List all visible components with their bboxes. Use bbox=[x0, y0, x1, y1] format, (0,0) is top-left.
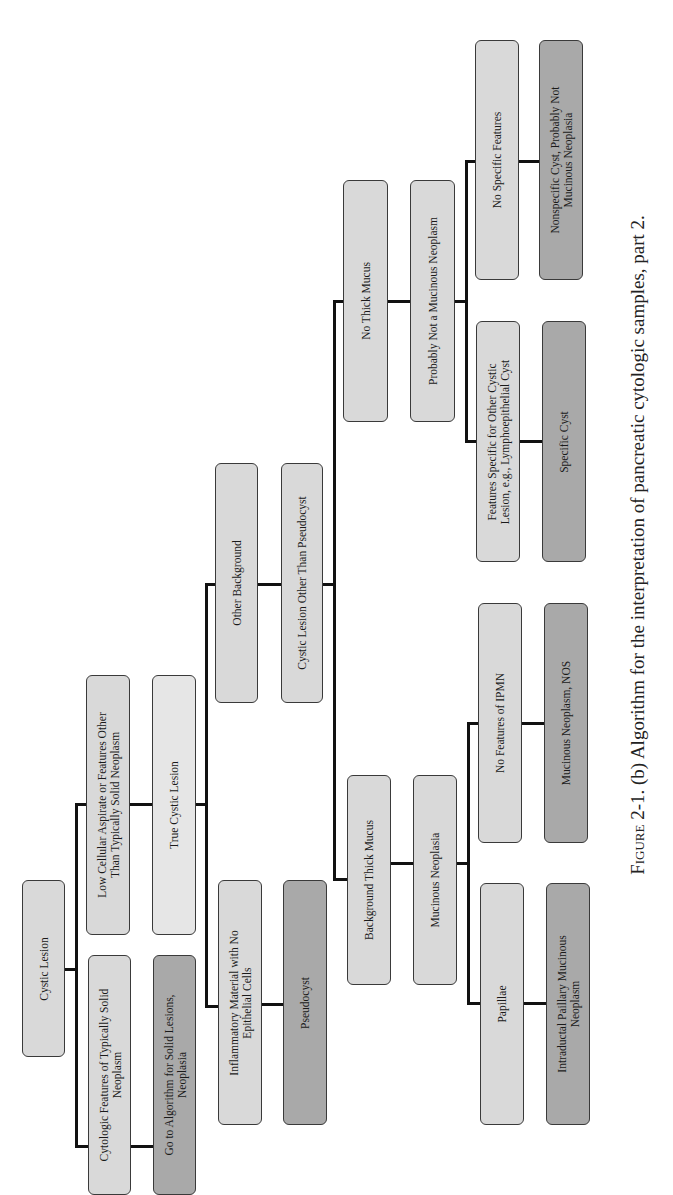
node-label: Probably Not a Mucinous Neoplasm bbox=[426, 217, 439, 385]
node-inflammatory-material: Inflammatory Material with NoEpithelial … bbox=[218, 880, 262, 1125]
node-no-thick-mucus: No Thick Mucus bbox=[343, 180, 388, 422]
connector bbox=[205, 583, 215, 586]
figure-label: Figure 2-1. bbox=[627, 790, 648, 875]
node-no-features-of-ipmn: No Features of IPMN bbox=[478, 603, 522, 843]
connector bbox=[75, 1145, 88, 1148]
node-label: Low Cellular Aspirate or Features OtherT… bbox=[96, 712, 121, 898]
node-papillae: Papillae bbox=[480, 883, 524, 1125]
node-features-specific-other-cystic: Features Specific for Other CysticLesion… bbox=[476, 321, 520, 562]
node-label: Background Thick Mucus bbox=[363, 820, 376, 940]
node-label: Cystic Lesion Other Than Pseudocyst bbox=[296, 496, 309, 670]
connector bbox=[465, 160, 475, 163]
figure-caption: Figure 2-1. (b) Algorithm for the interp… bbox=[627, 215, 649, 875]
node-mucinous-neoplasm-nos: Mucinous Neoplasm, NOS bbox=[544, 603, 588, 843]
node-cystic-lesion-other-than-pseudocyst: Cystic Lesion Other Than Pseudocyst bbox=[281, 463, 323, 703]
node-label: Pseudocyst bbox=[299, 977, 312, 1029]
node-label: No Features of IPMN bbox=[494, 673, 507, 773]
node-mucinous-neoplasia: Mucinous Neoplasia bbox=[413, 775, 457, 985]
connector bbox=[388, 300, 410, 303]
node-label: True Cystic Lesion bbox=[168, 761, 181, 849]
node-label: No Thick Mucus bbox=[359, 262, 372, 340]
node-label: Nonspecific Cyst, Probably NotMucinous N… bbox=[549, 87, 574, 234]
node-ipmn: Intraductal Paillary MucinousNeoplasm bbox=[546, 883, 590, 1125]
figure-caption-text: (b) Algorithm for the interpretation of … bbox=[627, 215, 648, 785]
node-label: Intraductal Paillary MucinousNeoplasm bbox=[556, 935, 581, 1072]
connector bbox=[519, 160, 539, 163]
node-label: Go to Algorithm for Solid Lesions,Neopla… bbox=[162, 995, 187, 1156]
connector bbox=[524, 1002, 546, 1005]
connector bbox=[467, 722, 478, 725]
node-label: Papillae bbox=[496, 985, 509, 1022]
connector bbox=[522, 722, 544, 725]
node-label: Features Specific for Other CysticLesion… bbox=[486, 359, 511, 524]
connector bbox=[467, 722, 470, 1004]
node-go-to-algorithm: Go to Algorithm for Solid Lesions,Neopla… bbox=[153, 955, 196, 1195]
connector bbox=[333, 878, 347, 881]
node-other-background: Other Background bbox=[215, 463, 258, 703]
node-label: Specific Cyst bbox=[558, 411, 571, 473]
node-cystic-lesion: Cystic Lesion bbox=[22, 880, 65, 1057]
connector bbox=[130, 1145, 153, 1148]
node-label: Cytologic Features of Typically SolidNeo… bbox=[97, 989, 122, 1162]
node-low-cellular-aspirate: Low Cellular Aspirate or Features OtherT… bbox=[86, 675, 130, 935]
connector bbox=[467, 1002, 480, 1005]
connector bbox=[130, 803, 152, 806]
connector bbox=[205, 583, 208, 1008]
node-label: Inflammatory Material with NoEpithelial … bbox=[228, 930, 253, 1075]
node-background-thick-mucus: Background Thick Mucus bbox=[347, 775, 391, 985]
node-cytologic-features: Cytologic Features of Typically SolidNeo… bbox=[88, 955, 131, 1195]
node-label: Mucinous Neoplasm, NOS bbox=[560, 661, 573, 785]
node-label: No Specific Features bbox=[491, 112, 504, 208]
node-nonspecific-cyst: Nonspecific Cyst, Probably NotMucinous N… bbox=[539, 40, 583, 280]
connector bbox=[262, 1003, 283, 1006]
connector bbox=[333, 300, 336, 880]
connector bbox=[333, 300, 343, 303]
node-label: Cystic Lesion bbox=[37, 937, 50, 1001]
node-no-specific-features: No Specific Features bbox=[475, 40, 519, 280]
connector bbox=[465, 160, 468, 442]
connector bbox=[75, 803, 78, 1148]
node-pseudocyst: Pseudocyst bbox=[283, 880, 327, 1125]
node-label: Other Background bbox=[230, 540, 243, 625]
connector bbox=[258, 583, 281, 586]
node-specific-cyst: Specific Cyst bbox=[542, 321, 586, 562]
connector bbox=[391, 862, 413, 865]
connector bbox=[205, 1005, 218, 1008]
node-true-cystic-lesion: True Cystic Lesion bbox=[152, 675, 196, 935]
node-probably-not-mucinous: Probably Not a Mucinous Neoplasm bbox=[410, 180, 455, 422]
connector bbox=[520, 440, 542, 443]
node-label: Mucinous Neoplasia bbox=[429, 833, 442, 928]
connector bbox=[465, 440, 476, 443]
